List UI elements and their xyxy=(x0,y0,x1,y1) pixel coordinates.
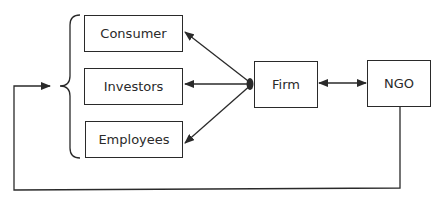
employees-box: Employees xyxy=(85,121,183,158)
investors-box: Investors xyxy=(84,68,183,105)
employees-label: Employees xyxy=(98,132,169,147)
ngo-label: NGO xyxy=(384,76,414,91)
ngo-box: NGO xyxy=(367,60,431,107)
feedback-loop-ngo-to-stakeholders xyxy=(14,86,400,190)
investors-label: Investors xyxy=(104,79,164,94)
firm-label: Firm xyxy=(272,77,300,92)
stakeholder-group-brace xyxy=(60,15,80,158)
convergence-node xyxy=(247,78,254,90)
consumer-box: Consumer xyxy=(84,15,183,52)
consumer-label: Consumer xyxy=(100,26,166,41)
arrow-firm-to-employees xyxy=(185,84,252,143)
firm-box: Firm xyxy=(254,61,318,108)
arrow-firm-to-consumer xyxy=(185,32,252,84)
